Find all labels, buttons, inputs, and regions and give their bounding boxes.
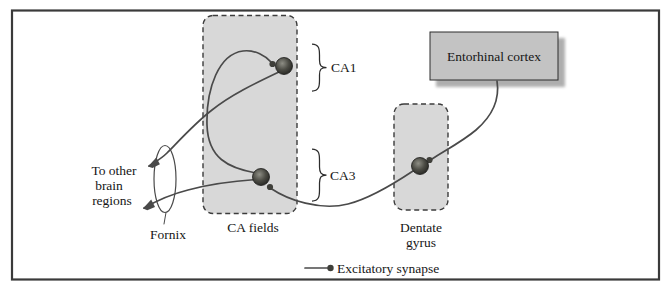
- synapse-terminal-ca1: [269, 61, 275, 67]
- label-fornix: Fornix: [150, 227, 186, 242]
- label-dentate-line1: Dentate: [400, 220, 442, 235]
- hippocampus-diagram: Entorhinal cortex CA1 CA3 CA fields Dent…: [0, 0, 668, 291]
- label-to-other-line2: brain: [95, 178, 123, 193]
- label-ca-fields: CA fields: [227, 220, 278, 235]
- label-ca1: CA1: [331, 60, 357, 75]
- legend-label: Excitatory synapse: [337, 261, 439, 276]
- label-ca3: CA3: [330, 168, 356, 183]
- label-to-other-line1: To other: [91, 163, 137, 178]
- label-to-other-line3: regions: [92, 193, 132, 208]
- region-dentate-gyrus: [394, 104, 448, 210]
- neuron-dentate: [412, 158, 429, 175]
- figure-canvas: Entorhinal cortex CA1 CA3 CA fields Dent…: [0, 0, 668, 291]
- label-entorhinal-cortex: Entorhinal cortex: [447, 49, 541, 64]
- neuron-ca1: [276, 58, 293, 75]
- synapse-terminal-ca3: [267, 184, 273, 190]
- legend-synapse-dot: [327, 265, 333, 271]
- label-dentate-line2: gyrus: [406, 235, 436, 250]
- neuron-ca3: [253, 169, 270, 186]
